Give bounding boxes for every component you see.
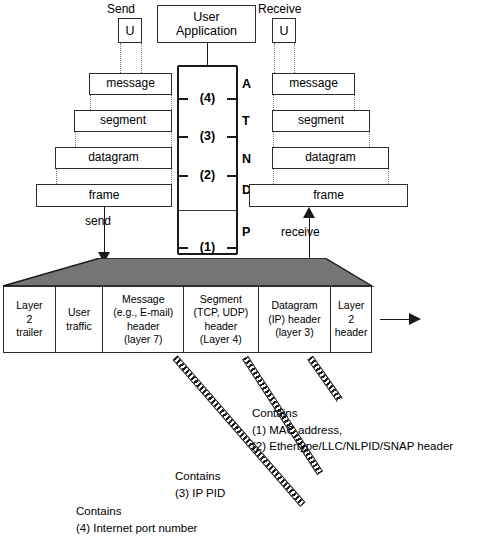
receive-box-message: message bbox=[272, 73, 355, 95]
send-box-datagram: datagram bbox=[55, 147, 172, 169]
user-application-label: User Application bbox=[176, 10, 237, 38]
pdu-strip: Layer 2 trailer User traffic Message (e.… bbox=[3, 286, 372, 353]
pdu-field-line: 2 bbox=[26, 313, 32, 326]
stack-tick-left-2 bbox=[179, 175, 188, 177]
send-box-message: message bbox=[89, 73, 172, 95]
diagram-canvas: Send U Receive U User Application (4) (3… bbox=[0, 0, 487, 543]
receive-dot-message-left bbox=[273, 95, 274, 110]
send-label: Send bbox=[107, 3, 135, 17]
send-arrow-label: send bbox=[85, 215, 111, 229]
user-application-box: User Application bbox=[157, 5, 256, 43]
send-dot-u-right bbox=[141, 43, 142, 73]
send-dot-message-right bbox=[171, 95, 172, 110]
pdu-field-line: trailer bbox=[16, 326, 42, 339]
pdu-field-segment-header: Segment (TCP, UDP) header (Layer 4) bbox=[184, 287, 259, 352]
stack-tick-left-4 bbox=[179, 98, 188, 100]
send-dot-segment-left bbox=[75, 132, 76, 147]
app-stack-connector bbox=[207, 43, 208, 66]
pdu-field-line: Segment bbox=[200, 293, 242, 306]
stack-tick-left-3 bbox=[179, 136, 188, 138]
receive-dot-u-right bbox=[294, 43, 295, 73]
annotation-line: Contains bbox=[175, 468, 225, 485]
send-unit-box: U bbox=[118, 18, 142, 43]
annotation-port-number: Contains (4) Internet port number bbox=[76, 503, 197, 536]
stack-layer-1: (1) bbox=[189, 240, 226, 254]
pdu-field-line: header bbox=[335, 326, 368, 339]
pdu-field-layer2-trailer: Layer 2 trailer bbox=[4, 287, 56, 352]
annotation-layer2-header: Contains (1) MAC address, (2) Ethertype/… bbox=[252, 405, 453, 455]
stack-tick-right-1 bbox=[227, 247, 236, 249]
pdu-field-layer2-header: Layer 2 header bbox=[331, 287, 371, 352]
annotation-line: Contains bbox=[76, 503, 197, 520]
receive-arrow-head bbox=[303, 207, 315, 218]
pdu-field-user-traffic: User traffic bbox=[56, 287, 104, 352]
stack-layer-3: (3) bbox=[189, 129, 226, 143]
annotation-line: (4) Internet port number bbox=[76, 520, 197, 537]
pdu-field-line: User bbox=[68, 306, 90, 319]
pdu-field-line: Layer bbox=[16, 299, 42, 312]
pdu-field-line: header bbox=[127, 320, 160, 333]
stack-layer-4: (4) bbox=[189, 91, 226, 105]
pdu-field-line: 2 bbox=[348, 313, 354, 326]
pdu-field-message-header: Message (e.g., E-mail) header (layer 7) bbox=[103, 287, 184, 352]
send-box-frame: frame bbox=[36, 184, 172, 207]
send-dot-u-left bbox=[120, 43, 121, 73]
receive-dot-message-right bbox=[354, 95, 355, 110]
stack-layer-2: (2) bbox=[189, 168, 226, 182]
pdu-field-line: Datagram bbox=[271, 299, 317, 312]
pdu-field-line: (layer 3) bbox=[275, 326, 314, 339]
pdu-field-line: (layer 7) bbox=[124, 333, 163, 346]
osi-letter-a: A bbox=[242, 77, 251, 91]
send-dot-message-left bbox=[90, 95, 91, 110]
stack-tick-right-3 bbox=[227, 136, 236, 138]
osi-letter-n: N bbox=[242, 152, 251, 166]
pdu-field-datagram-header: Datagram (IP) header (layer 3) bbox=[259, 287, 332, 352]
transmit-arrow-shaft bbox=[380, 319, 412, 320]
annotation-line: Contains bbox=[252, 405, 453, 422]
receive-dot-segment-right bbox=[369, 132, 370, 147]
annotation-line: (2) Ethertype/LLC/NLPID/SNAP header bbox=[252, 438, 453, 455]
pdu-field-line: (Layer 4) bbox=[200, 333, 242, 346]
pdu-field-line: traffic bbox=[66, 320, 91, 333]
pdu-field-line: header bbox=[204, 320, 237, 333]
receive-dot-u-left bbox=[274, 43, 275, 73]
annotation-line: (1) MAC address, bbox=[252, 422, 453, 439]
send-box-segment: segment bbox=[74, 110, 172, 132]
receive-dot-datagram-left bbox=[273, 169, 274, 184]
receive-box-datagram: datagram bbox=[272, 147, 389, 169]
receive-dot-datagram-right bbox=[388, 169, 389, 184]
send-dot-datagram-right bbox=[171, 169, 172, 184]
stack-tick-right-2 bbox=[227, 175, 236, 177]
annotation-line: (3) IP PID bbox=[175, 485, 225, 502]
leader-line-layer2-header bbox=[307, 355, 343, 402]
receive-label: Receive bbox=[258, 3, 301, 17]
receive-unit-box: U bbox=[272, 18, 296, 43]
osi-letter-t: T bbox=[242, 114, 250, 128]
osi-letter-p: P bbox=[242, 225, 250, 239]
receive-box-segment: segment bbox=[272, 110, 370, 132]
receive-arrow-label: receive bbox=[281, 226, 320, 240]
pdu-field-line: (e.g., E-mail) bbox=[113, 306, 173, 319]
pdu-field-line: Message bbox=[122, 293, 165, 306]
stack-tick-left-1 bbox=[179, 247, 188, 249]
pdu-field-line: Layer bbox=[338, 299, 364, 312]
stack-tick-right-4 bbox=[227, 98, 236, 100]
receive-dot-segment-left bbox=[273, 132, 274, 147]
annotation-ip-pid: Contains (3) IP PID bbox=[175, 468, 225, 501]
send-dot-datagram-left bbox=[56, 169, 57, 184]
send-dot-segment-right bbox=[171, 132, 172, 147]
transmit-arrow-head bbox=[409, 313, 421, 325]
pdu-field-line: (TCP, UDP) bbox=[194, 306, 249, 319]
receive-box-frame: frame bbox=[249, 184, 408, 207]
stack-divider-lower bbox=[179, 210, 236, 211]
pdu-field-line: (IP) header bbox=[268, 313, 321, 326]
